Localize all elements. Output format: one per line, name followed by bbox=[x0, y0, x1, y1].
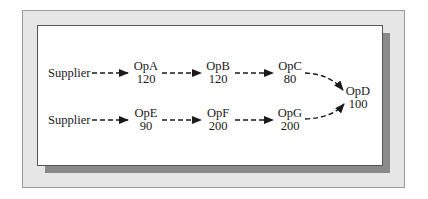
node-value: 100 bbox=[338, 98, 378, 111]
supplier-label-1: Supplier bbox=[48, 67, 90, 80]
node-value: 80 bbox=[270, 73, 310, 86]
node-opb: OpB 120 bbox=[198, 60, 238, 86]
node-opg: OpG 200 bbox=[270, 107, 310, 133]
node-opf: OpF 200 bbox=[198, 107, 238, 133]
node-opa: OpA 120 bbox=[126, 60, 166, 86]
node-opc: OpC 80 bbox=[270, 60, 310, 86]
supplier-label-2: Supplier bbox=[48, 114, 90, 127]
node-ope: OpE 90 bbox=[126, 107, 166, 133]
node-opd: OpD 100 bbox=[338, 85, 378, 111]
node-value: 120 bbox=[126, 73, 166, 86]
node-value: 200 bbox=[270, 120, 310, 133]
node-value: 120 bbox=[198, 73, 238, 86]
node-value: 90 bbox=[126, 120, 166, 133]
node-value: 200 bbox=[198, 120, 238, 133]
